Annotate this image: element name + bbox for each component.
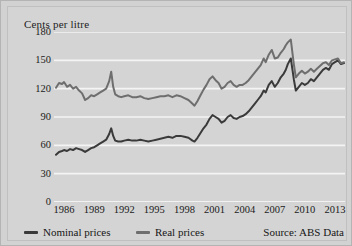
y-tick-label: 120 [9, 84, 51, 94]
x-tick-label: 1989 [84, 204, 105, 215]
x-tick-label: 1998 [174, 204, 195, 215]
y-tick-label: 30 [9, 169, 51, 179]
x-tick-label: 2004 [234, 204, 255, 215]
x-tick-label: 2007 [264, 204, 285, 215]
y-tick-label: 60 [9, 140, 51, 150]
source-note: Source: ABS Data [263, 226, 344, 238]
x-tick-label: 1986 [54, 204, 75, 215]
x-axis-tick-labels: 1986198919921995199820012004200720102013 [54, 204, 345, 220]
y-tick-label: 90 [9, 112, 51, 122]
chart-screenshot: Cents per litre 1801501209060300 1986198… [0, 0, 352, 246]
legend-label-real: Real prices [155, 226, 204, 238]
x-tick-label: 2001 [204, 204, 225, 215]
y-tick-label: 150 [9, 55, 51, 65]
chart-frame: Cents per litre 1801501209060300 1986198… [7, 6, 347, 241]
legend-label-nominal: Nominal prices [43, 226, 111, 238]
legend-item-nominal[interactable]: Nominal prices [24, 226, 111, 238]
legend-item-real[interactable]: Real prices [136, 226, 204, 238]
x-tick-label: 2010 [294, 204, 315, 215]
chart-svg [54, 32, 345, 202]
legend-swatch-real [136, 231, 150, 234]
x-tick-label: 1992 [114, 204, 135, 215]
chart-legend: Nominal prices Real prices Source: ABS D… [24, 226, 344, 242]
series-line-real [56, 40, 344, 106]
x-tick-label: 1995 [144, 204, 165, 215]
y-tick-label: 0 [9, 197, 51, 207]
plot-area [54, 32, 345, 202]
legend-swatch-nominal [24, 231, 38, 234]
y-tick-label: 180 [9, 27, 51, 37]
x-tick-label: 2013 [324, 204, 345, 215]
y-axis-tick-labels: 1801501209060300 [8, 32, 51, 202]
